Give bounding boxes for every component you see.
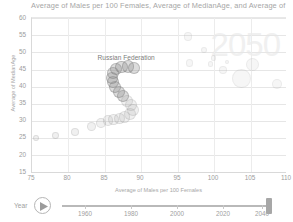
series-annotation-label: Russian Federation — [98, 54, 155, 61]
gridline-vertical — [105, 18, 106, 172]
x-axis-tick: 105 — [239, 174, 261, 181]
slider-tick-label: 2020 — [210, 210, 236, 217]
x-axis-tick: 80 — [56, 174, 78, 181]
gridline-horizontal — [32, 155, 286, 156]
bubble-point[interactable] — [219, 66, 227, 74]
x-axis-tick: 100 — [202, 174, 224, 181]
x-axis-tick: 90 — [129, 174, 151, 181]
slider-tick-label: 1960 — [72, 210, 98, 217]
bubble-point[interactable] — [246, 58, 259, 71]
y-axis-tick: 25 — [6, 133, 26, 140]
bubble-point[interactable] — [272, 79, 282, 89]
y-axis-tick: 20 — [6, 151, 26, 158]
gridline-vertical — [141, 18, 142, 172]
y-axis-title: Average of MedianAge — [10, 44, 16, 122]
bubble-point[interactable] — [232, 69, 251, 88]
x-axis-tick: 110 — [275, 174, 293, 181]
play-button[interactable] — [34, 197, 51, 214]
x-axis-line — [31, 172, 286, 173]
x-axis-tick: 95 — [166, 174, 188, 181]
gridline-horizontal — [32, 87, 286, 88]
chart-title: Average of Males per 100 Females, Averag… — [31, 1, 285, 10]
y-axis-tick: 40 — [6, 82, 26, 89]
y-axis-tick: 55 — [6, 31, 26, 38]
gridline-vertical — [251, 18, 252, 172]
bubble-point[interactable] — [71, 128, 79, 136]
gridline-vertical — [68, 18, 69, 172]
y-axis-tick: 45 — [6, 65, 26, 72]
x-axis-title: Average of Males per 100 Females — [31, 187, 286, 193]
gridline-horizontal — [32, 138, 286, 139]
play-icon — [40, 202, 48, 211]
bubble-point[interactable] — [87, 122, 96, 131]
bubble-point[interactable] — [211, 55, 216, 60]
x-axis-tick: 85 — [93, 174, 115, 181]
y-axis-tick: 35 — [6, 99, 26, 106]
bubble-point[interactable] — [208, 61, 214, 67]
bubble-point[interactable] — [128, 62, 140, 74]
y-axis-tick: 60 — [6, 14, 26, 21]
gridline-horizontal — [32, 35, 286, 36]
bubble-chart-app: Average of Males per 100 Females, Averag… — [0, 0, 293, 222]
y-axis-tick: 30 — [6, 116, 26, 123]
x-axis-tick: 75 — [20, 174, 42, 181]
year-slider-control: Year 1960 1980 2000 2020 2040 — [0, 196, 293, 222]
gridline-horizontal — [32, 121, 286, 122]
slider-tick-label: 2000 — [164, 210, 190, 217]
bubble-point[interactable] — [225, 60, 229, 64]
gridline-horizontal — [32, 52, 286, 53]
gridline-vertical — [178, 18, 179, 172]
bubble-point[interactable] — [184, 32, 193, 41]
plot-area: 2050 Russian Federation — [31, 17, 286, 172]
gridline-vertical — [214, 18, 215, 172]
slider-handle[interactable] — [266, 198, 272, 214]
slider-tick-label: 1980 — [118, 210, 144, 217]
slider-label: Year — [14, 202, 27, 209]
y-axis-tick: 50 — [6, 48, 26, 55]
year-watermark: 2050 — [211, 28, 280, 61]
bubble-point[interactable] — [52, 132, 59, 139]
bubble-point[interactable] — [186, 59, 194, 67]
bubble-point[interactable] — [33, 135, 39, 141]
gridline-horizontal — [32, 104, 286, 105]
gridline-horizontal — [32, 18, 286, 19]
